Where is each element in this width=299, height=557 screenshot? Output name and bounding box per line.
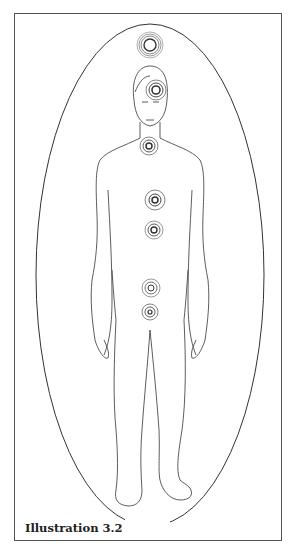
aura-ellipse <box>36 24 264 526</box>
figure-caption: Illustration 3.2 <box>25 521 123 535</box>
throat-chakra-icon <box>140 137 158 155</box>
illustration-artwork <box>0 0 299 557</box>
forehead-chakra-icon <box>146 80 166 100</box>
human-figure-outline <box>91 66 209 506</box>
energy-centers <box>137 32 166 320</box>
root-chakra-icon <box>142 304 158 320</box>
solar-plexus-chakra-icon <box>145 221 163 239</box>
sacral-chakra-icon <box>142 279 160 297</box>
crown-chakra-icon <box>137 32 163 58</box>
chest-chakra-icon <box>145 190 165 210</box>
